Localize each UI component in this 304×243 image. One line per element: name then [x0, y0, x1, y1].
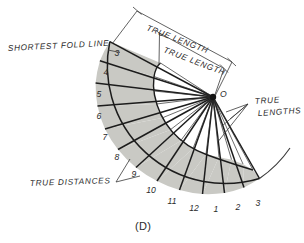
apex-label-o: O: [220, 89, 227, 99]
station-label-12: 12: [189, 203, 199, 213]
outer-arc-extension: [260, 148, 291, 179]
label-true-lengths-line1: TRUE: [255, 95, 281, 106]
station-label-9: 9: [132, 169, 137, 179]
label-true-lengths-line2: LENGTHS: [258, 106, 302, 118]
station-label-3b: 3: [256, 198, 261, 208]
label-shortest-fold-line: SHORTEST FOLD LINE: [8, 39, 110, 53]
development-diagram: SHORTEST FOLD LINE TRUE LENGTH TRUE LENG…: [0, 0, 304, 243]
station-label-10: 10: [146, 185, 156, 195]
station-label-5: 5: [97, 89, 102, 99]
leader-true-lengths-4: [230, 104, 248, 119]
station-label-1: 1: [214, 204, 219, 214]
station-label-2: 2: [235, 202, 241, 212]
station-label-11: 11: [168, 196, 177, 206]
dim-tick-outer-right: [228, 58, 237, 66]
label-true-distances: TRUE DISTANCES: [30, 176, 111, 188]
extension-line-inner-left: [159, 33, 160, 64]
dim-tick-outer-left: [133, 7, 142, 15]
station-label-4: 4: [104, 67, 109, 77]
extension-line-outer-left: [112, 11, 137, 44]
figure-caption: (D): [135, 220, 151, 232]
station-label-6: 6: [97, 111, 102, 121]
station-label-3: 3: [115, 48, 120, 58]
station-label-8: 8: [115, 152, 120, 162]
